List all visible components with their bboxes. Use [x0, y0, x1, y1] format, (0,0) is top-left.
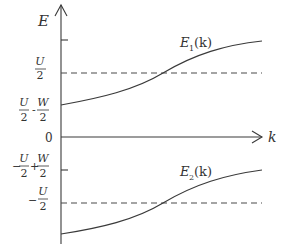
curve-e1-label: E 1 (k) — [179, 35, 212, 53]
origin-label: 0 — [45, 131, 53, 145]
tick-label-u2-minus-w2: U 2 - W 2 — [19, 96, 50, 124]
svg-text:(k): (k) — [194, 35, 212, 50]
svg-text:2: 2 — [21, 167, 28, 180]
e-axis-label: E — [37, 12, 49, 30]
band-diagram: E k 0 E 1 (k) E 2 (k) U 2 U 2 - W — [0, 0, 287, 250]
svg-text:2: 2 — [40, 200, 47, 213]
svg-text:U: U — [35, 55, 45, 68]
svg-text:U: U — [38, 185, 48, 198]
curve-e2-label: E 2 (k) — [179, 164, 212, 182]
diagram-canvas: E k 0 E 1 (k) E 2 (k) U 2 U 2 - W — [0, 0, 287, 250]
k-axis-label: k — [268, 129, 276, 145]
svg-text:2: 2 — [21, 111, 28, 124]
curve-e2 — [61, 170, 262, 234]
svg-text:2: 2 — [40, 111, 47, 124]
svg-text:W: W — [37, 152, 50, 165]
svg-text:-: - — [32, 104, 36, 117]
svg-text:−: − — [28, 194, 37, 207]
tick-label-u2: U 2 — [35, 55, 46, 82]
svg-text:U: U — [19, 152, 29, 165]
svg-text:(k): (k) — [194, 164, 212, 179]
svg-text:W: W — [37, 96, 50, 109]
svg-text:2: 2 — [40, 167, 47, 180]
tick-label-neg-u2: − U 2 — [28, 185, 48, 213]
tick-label-neg-u2-plus-w2: − U 2 + W 2 — [12, 152, 50, 180]
svg-text:2: 2 — [37, 69, 44, 82]
svg-text:U: U — [19, 96, 29, 109]
